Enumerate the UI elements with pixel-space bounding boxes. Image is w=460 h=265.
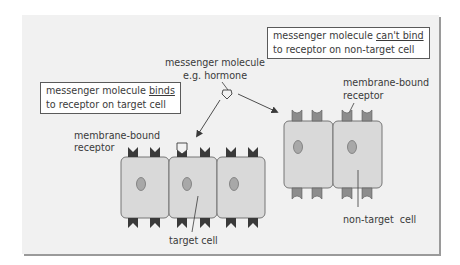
nucleus-icon [348, 141, 357, 154]
non-target-cell-1 [284, 121, 333, 188]
hormone-icon [222, 90, 232, 99]
nucleus-icon [294, 141, 303, 154]
nucleus-icon [137, 178, 146, 191]
receptor-right-label-line2: receptor [343, 90, 384, 101]
target-receptor-icon [128, 147, 138, 157]
non-target-receptor-icon [342, 110, 352, 121]
non-target-cell-group [284, 110, 382, 199]
target-cell-group [121, 143, 265, 228]
target-receptor-icon [226, 147, 236, 157]
target-cell-3 [217, 157, 265, 218]
nucleus-icon [230, 178, 239, 191]
nucleus-icon [183, 178, 192, 191]
receptor-right-label-line1: membrane-bound [343, 77, 429, 88]
receptor-left-label-line2: receptor [74, 142, 115, 153]
target-receptor-icon [150, 147, 160, 157]
target-cell-2 [169, 157, 217, 218]
target-receptor-icon [200, 147, 210, 157]
messenger-leader-line [222, 82, 228, 90]
messenger-label-line2: e.g. hormone [183, 70, 247, 81]
arrow-to-non-target [238, 94, 277, 112]
receptor-left-label-line1: membrane-bound [74, 130, 160, 141]
non-target-receptor-icon [292, 110, 302, 121]
messenger-label-line1: messenger molecule [165, 57, 265, 68]
non-target-cell-2 [333, 121, 382, 188]
target-receptor-icon [248, 147, 258, 157]
non-target-cell-label: non-target cell [343, 214, 416, 225]
diagram-canvas: messenger molecule e.g. hormone membrane… [0, 0, 460, 265]
arrow-to-target [197, 100, 220, 136]
target-cell-label: target cell [169, 235, 218, 246]
non-target-receptor-icon [312, 110, 322, 121]
non-target-receptor-icon [362, 110, 372, 121]
